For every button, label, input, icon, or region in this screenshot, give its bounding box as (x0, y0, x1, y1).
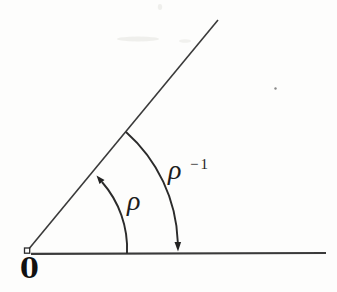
rho-label: ρ (126, 185, 140, 216)
rho-arc (102, 182, 127, 254)
scan-smudge (179, 39, 191, 43)
slanted-ray (29, 20, 218, 249)
rho-inverse-arc-arrowhead (175, 242, 182, 252)
rho-inverse-label-superscript: −1 (190, 156, 210, 172)
scan-smudge (117, 37, 159, 42)
angle-diagram-svg: ρ ρ −1 0 (0, 0, 337, 292)
rho-inverse-label-base: ρ (167, 154, 181, 185)
rotation-angle-figure: ρ ρ −1 0 (0, 0, 337, 292)
origin-label: 0 (20, 253, 39, 284)
scan-dot (274, 87, 276, 89)
horizontal-ray (31, 253, 326, 254)
scan-smudge (158, 4, 162, 10)
